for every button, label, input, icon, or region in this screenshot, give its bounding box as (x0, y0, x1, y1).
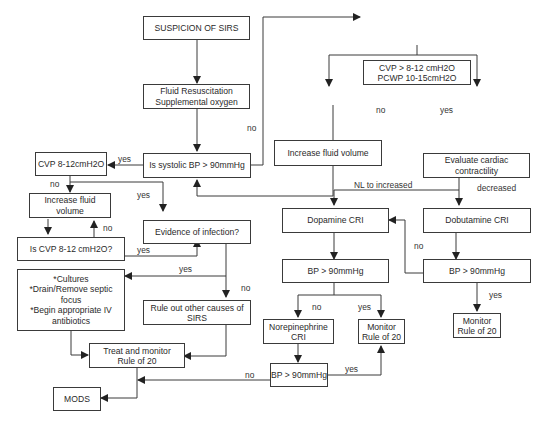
node-cultures-antibiotics: *Cultures *Drain/Remove septic focus *Be… (17, 269, 125, 331)
node-treat-monitor: Treat and monitor Rule of 20 (89, 343, 185, 368)
node-norepinephrine-cri: Norepinephrine CRI (263, 319, 334, 344)
node-cvp-left: CVP 8-12cmH2O (35, 152, 107, 176)
label-systolic-yes: yes (118, 154, 131, 164)
label-is-cvp-no: no (103, 223, 112, 233)
node-bp-after-dobutamine: BP > 90mmHg (423, 259, 531, 283)
label-dopa-bp-no: no (312, 302, 321, 312)
label-infection-yes: yes (179, 264, 192, 274)
node-systolic-bp-check: Is systolic BP > 90mmHg (143, 153, 251, 178)
node-monitor-right: Monitor Rule of 20 (453, 313, 501, 338)
node-dobutamine-cri: Dobutamine CRI (423, 208, 531, 233)
label-infection-no: no (241, 283, 250, 293)
node-bp-after-norepinephrine: BP > 90mmHg (270, 363, 328, 387)
node-cvp-pcwp: CVP > 8-12 cmH2O PCWP 10-15cmH2O (363, 60, 471, 85)
node-bp-after-dopamine: BP > 90mmHg (282, 259, 389, 283)
node-suspicion-of-sirs: SUSPICION OF SIRS (143, 16, 250, 40)
label-norepi-bp-no: no (245, 370, 254, 380)
label-cvp-pcwp-yes: yes (440, 105, 453, 115)
label-cvp-left-yes: yes (137, 190, 150, 200)
label-systolic-no: no (247, 123, 256, 133)
label-is-cvp-yes: yes (137, 245, 150, 255)
node-monitor-mid: Monitor Rule of 20 (358, 319, 405, 344)
label-norepi-bp-yes: yes (345, 364, 358, 374)
label-cvp-left-no: no (50, 179, 59, 189)
node-increase-fluid-right: Increase fluid volume (274, 140, 382, 166)
node-increase-fluid-left: Increase fluid volume (29, 193, 111, 218)
node-is-cvp: Is CVP 8-12 cmH2O? (17, 237, 125, 261)
label-dobut-bp-yes: yes (489, 290, 502, 300)
node-dopamine-cri: Dopamine CRI (282, 208, 389, 233)
label-nl-to-increased: NL to increased (354, 180, 412, 190)
node-evaluate-cardiac: Evaluate cardiac contractility (423, 153, 530, 178)
label-cvp-pcwp-no: no (376, 105, 385, 115)
node-fluid-resuscitation: Fluid Resuscitation Supplemental oxygen (143, 84, 250, 109)
label-dobut-bp-no: no (414, 241, 423, 251)
node-mods: MODS (53, 387, 101, 411)
node-evidence-infection: Evidence of infection? (143, 220, 251, 244)
label-decreased: decreased (477, 183, 516, 193)
node-rule-out-causes: Rule out other causes of SIRS (143, 300, 251, 325)
label-dopa-bp-yes: yes (358, 302, 371, 312)
